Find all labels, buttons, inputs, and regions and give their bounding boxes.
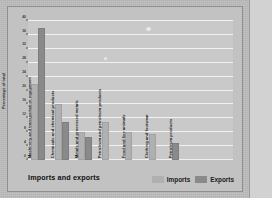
legend-label-imports: Imports (167, 176, 190, 183)
category-label: Food and live animals (121, 114, 125, 158)
legend-item-imports: Imports (152, 176, 190, 183)
bar-group (172, 143, 179, 160)
category-label: Clothing and footwear (145, 114, 149, 158)
bar-group (31, 28, 45, 160)
bar-exports (62, 122, 69, 160)
category-label: Petroleum and petroleum products (98, 88, 102, 158)
legend-label-exports: Exports (210, 176, 234, 183)
plot-area: Machinery and transportation equipmentCh… (28, 21, 233, 160)
bar-group (125, 132, 132, 160)
chart-legend: Imports Exports (152, 176, 234, 183)
chart-title: Imports and exports (28, 174, 100, 182)
bar-imports (149, 134, 156, 160)
bar-imports (78, 132, 85, 160)
bar-imports (125, 132, 132, 160)
legend-swatch-exports (195, 176, 207, 183)
category-label: Machinery and transportation equipment (27, 77, 31, 158)
bar-group (102, 122, 109, 160)
bar-group (55, 104, 69, 160)
bar-exports (85, 137, 92, 160)
bar-exports (172, 143, 179, 160)
y-axis-label: Percentage of total (2, 72, 6, 108)
y-axis: 0481216202428323640 (8, 21, 28, 160)
legend-swatch-imports (152, 176, 164, 183)
category-label: Metals and processed metals (74, 100, 78, 158)
bar-group (78, 132, 92, 160)
legend-item-exports: Exports (195, 176, 234, 183)
bar-imports (55, 104, 62, 160)
bar-exports (38, 28, 45, 160)
page-right-margin (249, 0, 272, 198)
bar-series-container: Machinery and transportation equipmentCh… (28, 21, 233, 160)
bar-group (149, 134, 156, 160)
category-label: Petroleum products (168, 118, 172, 158)
scanned-page: Percentage of total 0481216202428323640 … (0, 0, 272, 198)
chart-figure: Percentage of total 0481216202428323640 … (7, 6, 243, 192)
category-label: Chemicals and chemical products (51, 90, 55, 158)
chart-footer: Imports and exports Imports Exports (8, 159, 242, 191)
bar-imports (31, 84, 38, 160)
bar-imports (102, 122, 109, 160)
